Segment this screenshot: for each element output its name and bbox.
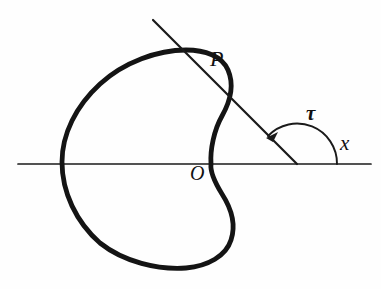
origin-label-o: O	[190, 163, 204, 183]
cardioid-diagram-svg	[0, 0, 381, 289]
tangent-line	[153, 20, 297, 164]
angle-arc-tau	[268, 124, 337, 164]
point-label-p: P	[210, 48, 223, 70]
axis-label-x: x	[340, 133, 349, 154]
figure-container: P O τ x	[0, 0, 381, 289]
cardioid-curve	[62, 50, 233, 268]
angle-label-tau: τ	[306, 103, 315, 124]
